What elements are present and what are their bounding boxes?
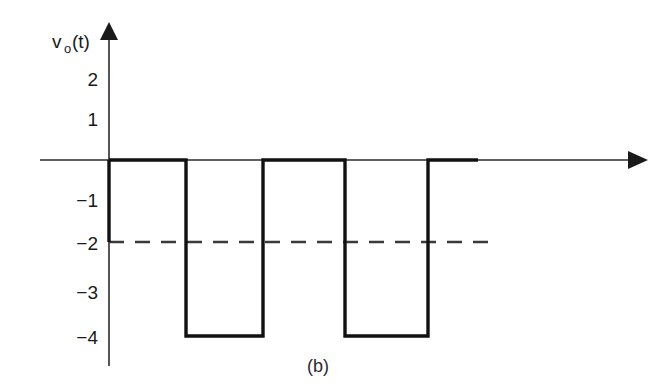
y-axis-title-subscript: o xyxy=(64,41,71,56)
waveform-figure: v o (t) 2 1 −1 −2 −3 −4 (b) xyxy=(0,0,651,387)
waveform-plot: v o (t) 2 1 −1 −2 −3 −4 (b) xyxy=(0,0,651,387)
y-axis-title: v o (t) xyxy=(52,31,90,56)
signal-waveform xyxy=(109,160,478,336)
y-axis-title-suffix: (t) xyxy=(72,31,90,52)
y-tick-label-neg1: −1 xyxy=(76,190,98,211)
y-tick-label-neg4: −4 xyxy=(76,327,98,348)
y-tick-label-neg2: −2 xyxy=(76,233,98,254)
y-tick-labels: 2 1 −1 −2 −3 −4 xyxy=(76,69,98,348)
y-tick-label-2: 2 xyxy=(87,69,98,90)
y-axis-arrow-icon xyxy=(100,22,118,40)
y-tick-label-neg3: −3 xyxy=(76,282,98,303)
y-tick-label-1: 1 xyxy=(87,109,98,130)
x-axis-arrow-icon xyxy=(628,151,648,169)
figure-caption: (b) xyxy=(307,356,329,376)
y-axis-title-main: v xyxy=(52,31,62,52)
